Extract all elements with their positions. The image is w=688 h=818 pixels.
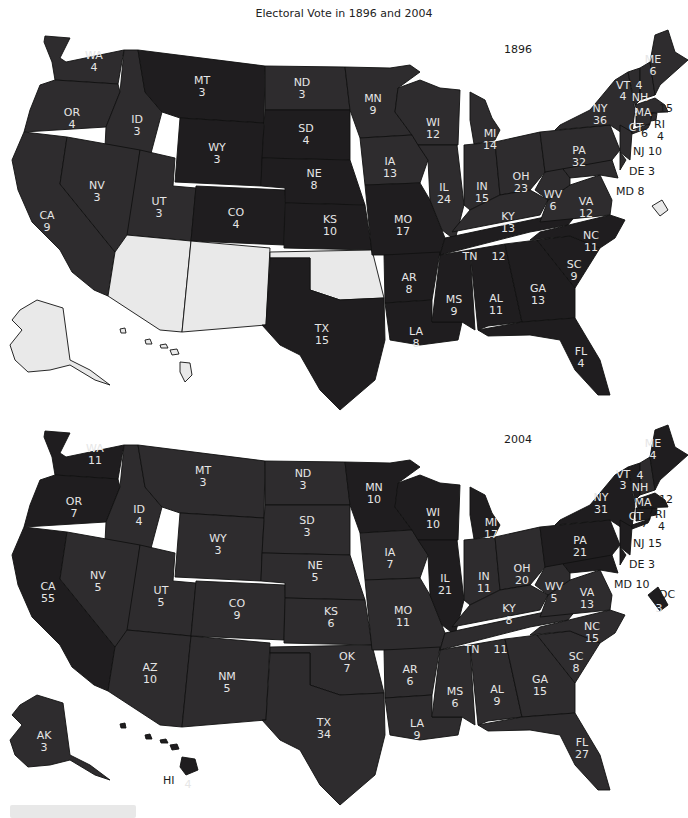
state-label-text: 15 [475,192,489,205]
label-GA: GA13 [530,282,547,307]
state-HI-4 [170,744,179,750]
state-label-text: 9 [234,609,241,622]
state-label-text: 9 [494,695,501,708]
state-label-text: 4 [136,515,143,528]
label-RI: RI4 [654,118,665,143]
state-label-text: 13 [531,294,545,307]
state-label-text: TN 11 [464,643,508,656]
label-CA: CA55 [40,580,56,605]
state-label-text: TN 12 [462,250,506,263]
year-label: 1896 [504,43,532,56]
state-label-text: 12 [659,493,673,506]
state-label-text: 11 [584,241,598,254]
label-NJ: NJ 15 [633,537,662,550]
state-label-text: 23 [514,182,528,195]
state-label-text: 8 [406,283,413,296]
state-label-text: 15 [585,632,599,645]
label-AZ: AZ10 [142,661,158,686]
territory-HI-2 [145,339,152,344]
state-HI-1 [120,723,126,728]
label-WI: WI12 [426,116,440,141]
state-label-text: 3 [214,153,221,166]
state-label-text: 9 [44,221,51,234]
state-WA [44,431,124,479]
label-NY: NY36 [593,102,608,127]
state-label-text: 7 [641,517,648,530]
label-RI: RI4 [655,508,666,533]
label-NJ: NJ 10 [633,145,662,158]
state-label-text: 20 [515,574,529,587]
state-label-text: 4 [658,520,665,533]
label-MO: MO17 [394,213,412,238]
state-label-text: 7 [344,662,351,675]
label-NY: NY31 [594,491,609,516]
label-MI: MI17 [484,516,498,541]
state-label-text: 11 [477,582,491,595]
state-label-text: 13 [580,598,594,611]
state-label-text: 9 [414,729,421,742]
territory-HI-1 [120,328,126,333]
state-label-text: 12 [426,128,440,141]
label-TX: TX34 [316,716,332,741]
state-label-text: 3 [94,191,101,204]
state-label-text: 27 [575,748,589,761]
state-label-text: 14 [483,139,497,152]
map-1896: 1896 WA4 OR4 CA9 ID3 NV3 UT3 MT3 WY3 CO4… [0,20,688,415]
state-label-text: 55 [41,592,55,605]
state-label-text: 8 [573,662,580,675]
state-label-text: 31 [594,503,608,516]
state-label-text: 5 [95,581,102,594]
state-FL [478,318,610,395]
label-IA: IA13 [383,155,397,180]
state-label-text: 6 [550,200,557,213]
state-label-text: 5 [158,596,165,609]
label-VA: VA12 [579,195,594,220]
label-VA: VA13 [580,586,595,611]
state-label-text: MA [634,496,651,509]
label-DE: DE 3 [629,558,655,571]
state-label-text: 10 [367,493,381,506]
label-OH: OH20 [514,562,531,587]
state-label-text: MA [634,106,651,119]
label-AL: AL11 [489,292,504,317]
state-label-text: 3 [299,88,306,101]
state-label-text: 3 [300,479,307,492]
label-MN: MN10 [365,481,383,506]
territory-HI-4 [170,349,179,355]
label-KY: KY13 [501,210,515,235]
state-label-text: 8 [506,614,513,627]
state-label-text: 4 [303,134,310,147]
state-label-text: 15 [315,334,329,347]
state-label-text: 17 [396,225,410,238]
state-label-text: NH [632,481,649,494]
state-label-text: 3 [620,479,627,492]
state-label-text: 8 [311,179,318,192]
state-label-text: 3 [41,741,48,754]
state-label-text: 12 [579,207,593,220]
state-label-text: 11 [88,454,102,467]
state-label-text: 5 [312,571,319,584]
year-label: 2004 [504,433,532,446]
state-label-text: 3 [215,544,222,557]
label-TN: TN 11 [464,643,508,656]
state-label-text: 3 [200,476,207,489]
label-MI: MI14 [483,127,497,152]
state-label-text: 3 [199,86,206,99]
label-IN: IN15 [475,180,489,205]
territory-DC [652,200,668,216]
label-PA: PA21 [573,534,587,559]
state-label-text: 7 [387,558,394,571]
state-label-text: 36 [593,114,607,127]
label-WI: WI10 [426,506,440,531]
state-label-text: 3 [156,207,163,220]
state-label-text: 4 [91,61,98,74]
label-LA: LA8 [409,325,423,350]
label-FL: FL27 [575,736,589,761]
state-label-text: 6 [641,127,648,140]
state-label-text: DC [659,588,675,601]
label-IN: IN11 [477,570,491,595]
state-FL [478,713,610,790]
state-label-text: 3 [304,526,311,539]
label-MD: MD 8 [616,185,644,198]
label-WA: WA11 [86,442,104,467]
